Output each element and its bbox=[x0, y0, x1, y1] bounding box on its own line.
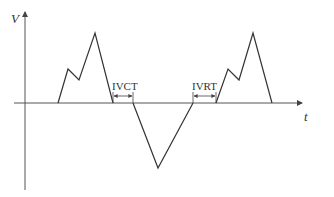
ivct-label: IVCT bbox=[112, 80, 138, 92]
y-axis-label: V bbox=[11, 11, 21, 26]
negative-wave bbox=[133, 103, 193, 168]
first-pulse bbox=[58, 33, 113, 103]
x-axis-label: t bbox=[304, 109, 308, 124]
ivct-interval: IVCT bbox=[112, 80, 138, 103]
ivrt-interval: IVRT bbox=[192, 80, 217, 103]
second-pulse bbox=[216, 33, 272, 103]
ivrt-label: IVRT bbox=[192, 80, 217, 92]
pressure-waveform-diagram: V t IVCT IVRT bbox=[0, 0, 334, 197]
